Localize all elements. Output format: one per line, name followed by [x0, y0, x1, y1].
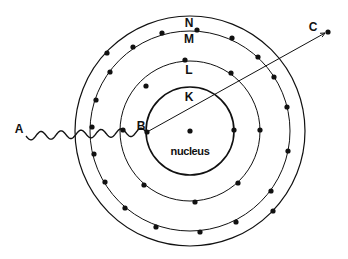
electron-l [257, 127, 262, 132]
electron-m [93, 97, 98, 102]
electron-l [235, 180, 240, 185]
electron-m [233, 219, 238, 224]
electron-m [91, 151, 96, 156]
bohr-atom-diagram: nucleus A B C KLMN [0, 0, 348, 259]
electron-m [130, 44, 135, 49]
electron-m [197, 229, 202, 234]
electron-l [192, 199, 197, 204]
electron-m [107, 69, 112, 74]
shell-k-label: K [185, 90, 194, 104]
electron-k [231, 127, 236, 132]
electron-l [141, 182, 146, 187]
ejected-electron-path [147, 29, 331, 132]
electron-m [153, 224, 158, 229]
electron-m [268, 188, 273, 193]
electron-l [228, 70, 233, 75]
nucleus-label: nucleus [171, 145, 210, 157]
electron-m [271, 74, 276, 79]
point-c-label: C [309, 20, 318, 34]
electron-l [120, 127, 125, 132]
ejected-electron [325, 29, 330, 34]
electron-m [89, 124, 94, 129]
electron-m [255, 54, 260, 59]
electron-m [122, 205, 127, 210]
electron-m [194, 27, 199, 32]
shell-l-label: L [185, 63, 192, 77]
electron-l [182, 57, 187, 62]
point-a-label: A [15, 122, 24, 136]
electron-l [143, 83, 148, 88]
nucleus-dot [187, 128, 192, 133]
electron-n [270, 208, 275, 213]
electron-m [229, 35, 234, 40]
electron-m [102, 179, 107, 184]
path-b-to-c [147, 33, 325, 132]
labels: nucleus A B C KLMN [15, 16, 318, 157]
electron-m [159, 30, 164, 35]
point-b-label: B [137, 119, 146, 133]
electron-m [285, 148, 290, 153]
shell-m-label: M [184, 32, 194, 46]
electron-m [284, 104, 289, 109]
incoming-photon-wave [26, 128, 147, 140]
electron-n [104, 50, 109, 55]
shell-n-label: N [185, 16, 194, 30]
